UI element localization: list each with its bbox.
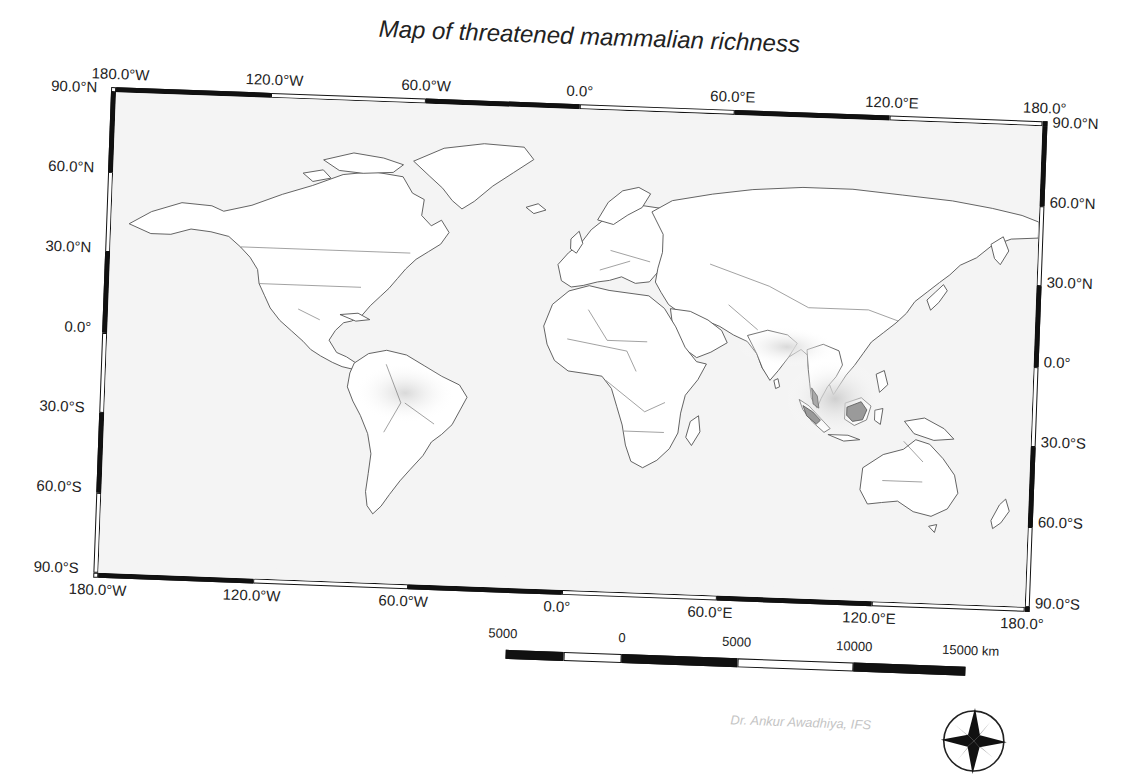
scale-label: 10000 <box>836 638 873 654</box>
bottom-lon-label: 120.0°W <box>222 585 280 604</box>
map-canvas[interactable] <box>98 92 1042 607</box>
left-lat-label: 90.0°N <box>51 77 98 96</box>
new-guinea <box>904 417 955 441</box>
north-america <box>124 163 451 373</box>
left-lat-label: 60.0°N <box>48 157 95 176</box>
southeast-asia-hotspot <box>784 357 887 441</box>
compass-rose-icon <box>939 706 1009 776</box>
bottom-lon-label: 0.0° <box>543 597 570 615</box>
world-map <box>98 92 1042 607</box>
scale-segment <box>505 650 563 661</box>
arctic-islands <box>323 152 404 175</box>
scale-label: 0 <box>618 630 626 645</box>
right-lat-label: 0.0° <box>1043 353 1070 371</box>
top-lon-label: 120.0°W <box>245 70 303 89</box>
right-lat-label: 90.0°S <box>1035 594 1081 613</box>
right-lat-label: 60.0°N <box>1049 193 1096 212</box>
scale-label: 5000 <box>488 625 517 641</box>
top-lon-label: 0.0° <box>566 82 593 100</box>
scale-segment <box>737 658 853 671</box>
frame-corner <box>1025 607 1030 612</box>
bottom-lon-label: 180.0° <box>1000 614 1044 633</box>
right-lat-label: 30.0°S <box>1040 433 1086 452</box>
scale-segment <box>853 663 965 676</box>
australia <box>859 438 960 518</box>
land-masses <box>98 130 1041 607</box>
scale-label: 15000 km <box>942 642 1000 659</box>
madagascar <box>685 415 700 445</box>
scale-segment <box>563 652 621 663</box>
new-zealand <box>991 499 1010 530</box>
top-lon-label: 60.0°W <box>401 76 451 95</box>
scale-segment <box>621 654 737 667</box>
right-lat-label: 30.0°N <box>1046 273 1093 292</box>
scale-bar: 5000 0 5000 10000 15000 km <box>504 638 966 715</box>
top-lon-label: 120.0°E <box>865 93 919 112</box>
left-lat-label: 60.0°S <box>36 477 82 496</box>
greenland <box>412 141 534 211</box>
bottom-lon-label: 120.0°E <box>842 608 896 627</box>
left-lat-label: 30.0°N <box>45 237 92 256</box>
map-frame <box>93 87 1047 612</box>
author-credit: Dr. Ankur Awadhiya, IFS <box>730 712 871 732</box>
right-lat-label: 60.0°S <box>1038 513 1084 532</box>
bottom-lon-label: 60.0°E <box>687 602 733 621</box>
left-lat-label: 90.0°S <box>33 557 79 576</box>
iceland <box>526 203 546 214</box>
map-sheet: Map of threatened mammalian richness 180… <box>0 0 1135 778</box>
left-lat-label: 30.0°S <box>39 397 85 416</box>
top-lon-label: 180.0°W <box>91 64 149 83</box>
left-lat-label: 0.0° <box>64 317 91 335</box>
bottom-lon-label: 60.0°W <box>378 591 428 610</box>
map-title: Map of threatened mammalian richness <box>349 14 830 60</box>
top-lon-label: 60.0°E <box>710 87 756 106</box>
scale-label: 5000 <box>722 634 751 650</box>
right-lat-label: 90.0°N <box>1052 114 1099 133</box>
bottom-lon-label: 180.0°W <box>68 580 126 599</box>
